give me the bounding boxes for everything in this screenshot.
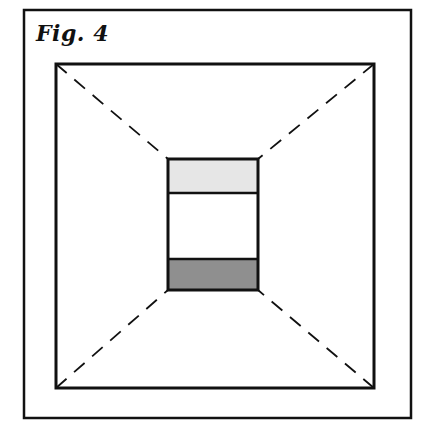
figure-title: Fig. 4 (36, 20, 109, 46)
top-light-band (168, 159, 258, 193)
diagonal-top-left (56, 64, 168, 159)
diagonal-bottom-right (258, 290, 374, 388)
diagonal-top-right (258, 64, 374, 159)
diagonal-bottom-left (56, 290, 168, 388)
figure-diagram (0, 0, 425, 430)
middle-white-band (168, 193, 258, 259)
bottom-dark-band (168, 259, 258, 290)
